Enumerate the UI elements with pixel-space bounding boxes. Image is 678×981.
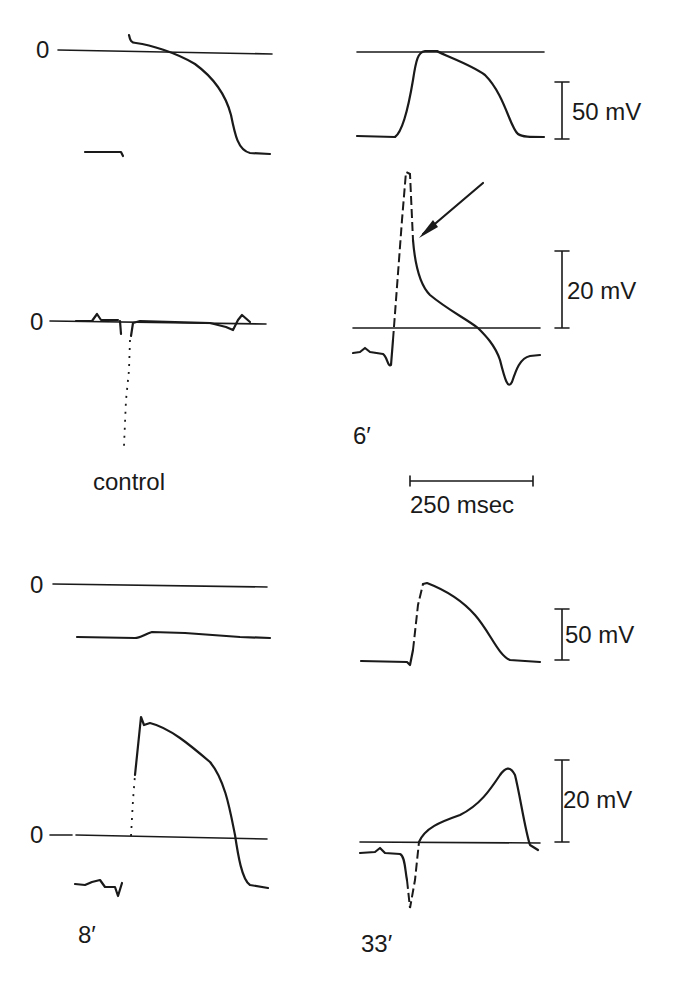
trace-control-upper-baseline [85, 152, 123, 156]
trace-6-upper [357, 51, 544, 137]
trace-control-lower-dotted [124, 340, 130, 446]
zero-line-8-lower [76, 835, 267, 839]
zero-line-8-upper [53, 584, 267, 587]
panel-label-8min: 8′ [78, 923, 96, 947]
trace-8-lower [135, 717, 268, 888]
trace-8-upper [77, 632, 270, 638]
zero-label: 0 [30, 823, 43, 847]
zero-label: 0 [30, 310, 43, 334]
trace-33-upper-rise [413, 584, 423, 650]
scale-bar-250msec [410, 476, 533, 486]
scale-label-50mv: 50 mV [565, 623, 634, 647]
zero-line-33-lower [360, 842, 540, 843]
trace-33-lower [419, 769, 538, 850]
scale-label-20mv: 20 mV [563, 788, 632, 812]
trace-6-lower-decay [413, 240, 540, 385]
trace-6-lower-pre [353, 340, 393, 365]
trace-33-lower-dip [407, 842, 419, 908]
trace-8-lower-baseline [75, 880, 122, 896]
figure: 0 0 0 0 50 mV 20 mV 250 msec 50 mV 20 mV… [0, 0, 678, 981]
scale-bar-50mv-top [555, 82, 569, 139]
trace-33-lower-pre [360, 848, 407, 880]
zero-label: 0 [30, 573, 43, 597]
trace-33-upper [423, 583, 540, 662]
trace-33-upper-base [361, 650, 413, 665]
scale-label-250msec: 250 msec [410, 493, 514, 517]
scale-label-20mv: 20 mV [567, 279, 636, 303]
scale-label-50mv: 50 mV [572, 100, 641, 124]
panel-label-6min: 6′ [353, 424, 371, 448]
panel-label-33min: 33′ [361, 932, 392, 956]
panel-label-control: control [93, 470, 165, 494]
zero-label: 0 [36, 38, 49, 62]
trace-8-lower-dotted [131, 775, 135, 836]
trace-6-lower-spike [393, 172, 413, 340]
trace-control-lower [76, 314, 250, 336]
